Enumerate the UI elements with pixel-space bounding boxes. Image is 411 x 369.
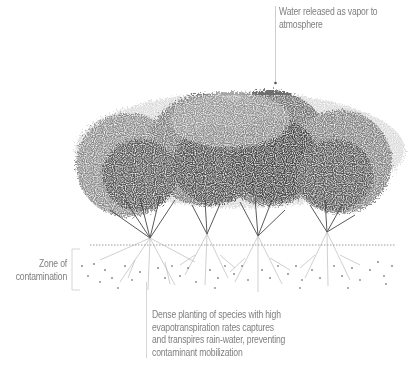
vapor-annotation: Water released as vapor to atmosphere <box>279 6 399 31</box>
contamination-zone-label: Zone of contamination <box>0 258 67 283</box>
planting-annotation: Dense planting of species with high evap… <box>152 309 324 359</box>
planting-annotation-line-3: and transpires rain-water, preventing <box>152 334 324 347</box>
contamination-zone-bracket <box>72 249 80 290</box>
foliage-texture <box>75 95 405 240</box>
root-systems <box>100 232 360 292</box>
vapor-annotation-line-1: Water released as vapor to <box>279 6 399 19</box>
planting-annotation-line-2: evapotranspiration rates captures <box>152 322 324 335</box>
planting-annotation-line-1: Dense planting of species with high <box>152 309 324 322</box>
contamination-label-line-1: Zone of <box>0 258 67 271</box>
vapor-annotation-line-2: atmosphere <box>279 19 399 32</box>
planting-annotation-line-4: contaminant mobilization <box>152 347 324 360</box>
contamination-label-line-2: contamination <box>0 271 67 284</box>
vapor-leader-line <box>274 6 277 84</box>
